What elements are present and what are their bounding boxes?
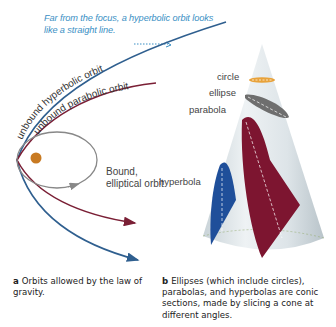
hyperbolic-orbit-path [17,22,226,260]
caption-a-letter: a [13,276,19,286]
hyperbolic-annotation: Far from the focus, a hyperbolic orbit l… [44,13,214,36]
caption-b-letter: b [162,276,168,286]
caption-a-text: Orbits allowed by the law of gravity. [13,276,142,297]
label-elliptical-orbit: Bound, elliptical orbit [106,166,166,190]
caption-b: bEllipses (which include circles), parab… [162,276,334,321]
caption-a: aOrbits allowed by the law of gravity. [13,276,153,298]
caption-b-text: Ellipses (which include circles), parabo… [162,276,318,320]
elliptical-orbit-path [17,132,97,188]
label-ellipse: ellipse [209,87,236,98]
label-hyperbola: hyperbola [159,176,201,187]
focus-star [31,153,42,164]
label-parabola: parabola [189,104,226,115]
label-circle: circle [217,71,239,82]
orbit-diagram: unbound hyperbolic orbit unbound parabol… [14,22,226,260]
